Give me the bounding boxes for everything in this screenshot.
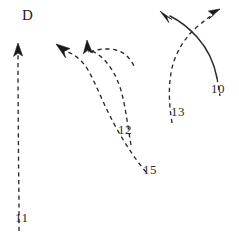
track-label-11: 11 (15, 210, 28, 226)
trajectory-figure: D 11 12 15 13 10 (0, 0, 239, 236)
trajectory-plot-area (0, 0, 239, 236)
track-10-path (170, 16, 217, 78)
track-11-group (14, 43, 23, 231)
track-12-branch-path (90, 49, 134, 66)
track-11-arrowhead-icon (14, 43, 23, 56)
track-15-path (66, 51, 146, 172)
track-11-path (18, 54, 19, 231)
track-label-15: 15 (143, 162, 157, 178)
panel-label: D (22, 7, 33, 24)
track-label-12: 12 (118, 122, 132, 138)
track-15-arrowhead-icon (56, 44, 70, 58)
track-label-10: 10 (211, 81, 225, 97)
track-10-group (160, 11, 217, 78)
track-label-13: 13 (171, 104, 185, 120)
track-12-branch-group (90, 49, 134, 66)
